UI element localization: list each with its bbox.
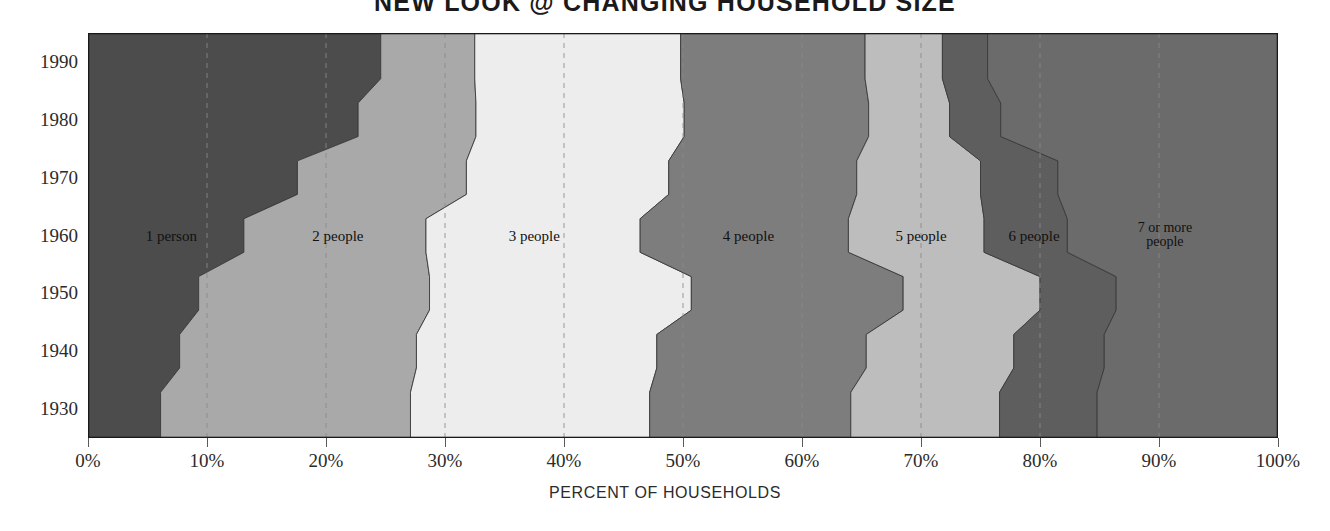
x-axis-tick-20: 20%: [309, 450, 344, 472]
y-axis-tick-1990: 1990: [8, 51, 78, 73]
x-axis-tick-50: 50%: [666, 450, 701, 472]
x-axis-tick-mark: [802, 438, 803, 447]
y-axis-tick-1930: 1930: [8, 398, 78, 420]
x-axis-tick-mark: [207, 438, 208, 447]
stacked-area-svg: [88, 33, 1278, 438]
plot-area: [88, 33, 1278, 438]
x-axis-tick-mark: [564, 438, 565, 447]
x-axis-tick-0: 0%: [75, 450, 100, 472]
y-axis: 1990198019701960195019401930: [0, 33, 78, 438]
household-size-chart: NEW LOOK @ CHANGING HOUSEHOLD SIZE 19901…: [0, 0, 1330, 531]
x-axis-tick-mark: [1159, 438, 1160, 447]
x-axis-tick-10: 10%: [190, 450, 225, 472]
x-axis-tick-90: 90%: [1142, 450, 1177, 472]
y-axis-tick-1980: 1980: [8, 109, 78, 131]
x-axis-tick-mark: [1278, 438, 1279, 447]
y-axis-tick-1970: 1970: [8, 167, 78, 189]
x-axis-tick-40: 40%: [547, 450, 582, 472]
y-axis-tick-1940: 1940: [8, 340, 78, 362]
x-axis-tick-mark: [1040, 438, 1041, 447]
x-axis-tick-60: 60%: [785, 450, 820, 472]
x-axis-tick-mark: [683, 438, 684, 447]
x-axis-tick-80: 80%: [1023, 450, 1058, 472]
x-axis-tick-mark: [445, 438, 446, 447]
x-axis-tick-100: 100%: [1256, 450, 1300, 472]
x-axis-caption: PERCENT OF HOUSEHOLDS: [0, 484, 1330, 502]
chart-title: NEW LOOK @ CHANGING HOUSEHOLD SIZE: [0, 0, 1330, 17]
x-axis-tick-30: 30%: [428, 450, 463, 472]
x-axis: 0%10%20%30%40%50%60%70%80%90%100%: [88, 438, 1278, 478]
y-axis-tick-1950: 1950: [8, 282, 78, 304]
x-axis-tick-70: 70%: [904, 450, 939, 472]
x-axis-tick-mark: [88, 438, 89, 447]
x-axis-tick-mark: [921, 438, 922, 447]
x-axis-tick-mark: [326, 438, 327, 447]
y-axis-tick-1960: 1960: [8, 225, 78, 247]
